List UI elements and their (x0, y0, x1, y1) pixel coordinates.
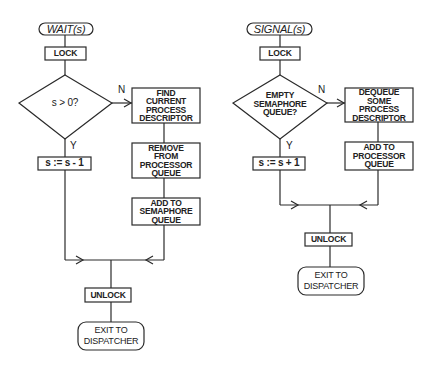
wait-exit-box: EXIT TO DISPATCHER (78, 322, 144, 350)
signal-yes-label: Y (286, 140, 293, 151)
signal-add-to-processor-box: ADD TO PROCESSOR QUEUE (345, 142, 413, 170)
signal-decision-text: EMPTY SEMAPHORE QUEUE? (245, 90, 315, 118)
signal-unlock-box: UNLOCK (305, 233, 352, 246)
wait-title: WAIT(s) (39, 23, 93, 35)
wait-remove-from-processor-box: REMOVE FROM PROCESSOR QUEUE (132, 143, 200, 178)
signal-increment-box: s := s + 1 (253, 157, 305, 170)
signal-title: SIGNAL(s) (247, 23, 312, 35)
wait-yes-label: Y (70, 140, 77, 151)
signal-exit-box: EXIT TO DISPATCHER (298, 267, 364, 295)
wait-unlock-box: UNLOCK (85, 288, 131, 302)
wait-decrement-box: s := s - 1 (38, 157, 91, 170)
wait-no-label: N (118, 84, 125, 95)
wait-find-descriptor-box: FIND CURRENT PROCESS DESCRIPTOR (132, 88, 200, 123)
signal-dequeue-box: DEQUEUE SOME PROCESS DESCRIPTOR (345, 88, 413, 122)
signal-lock-box: LOCK (260, 47, 300, 60)
wait-lock-box: LOCK (45, 47, 86, 60)
wait-add-to-semaphore-box: ADD TO SEMAPHORE QUEUE (132, 198, 200, 225)
wait-decision-text: s > 0? (35, 95, 95, 111)
signal-no-label: N (318, 84, 325, 95)
